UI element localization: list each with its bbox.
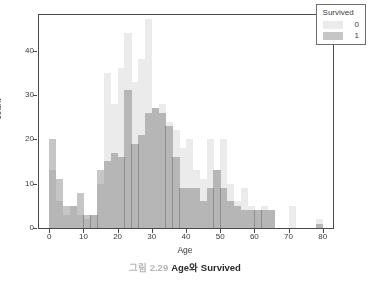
legend-item-label: 1 (355, 31, 359, 40)
x-axis-label: Age (0, 245, 370, 255)
figure-container: 010203040 01020304050607080 count Age Su… (0, 0, 370, 287)
histogram-bar (316, 224, 323, 228)
y-axis-tick-mark (33, 139, 37, 140)
histogram-bar (268, 210, 275, 228)
plot-area (39, 15, 333, 228)
y-axis-tick-label: 0 (4, 224, 34, 232)
legend-item-label: 0 (355, 20, 359, 29)
legend-entries: 01 (323, 20, 359, 40)
y-axis-tick-mark (33, 51, 37, 52)
x-axis-tick-label: 0 (34, 233, 64, 241)
x-axis-tick-label: 70 (274, 233, 304, 241)
figure-caption: 그림 2.29Age와 Survived (0, 262, 370, 274)
x-axis-tick-mark (289, 229, 290, 233)
x-axis-tick-mark (49, 229, 50, 233)
legend-swatch-icon (323, 32, 343, 40)
x-axis-tick-label: 20 (103, 233, 133, 241)
x-axis-tick-label: 80 (308, 233, 338, 241)
x-axis-tick-mark (152, 229, 153, 233)
plot-frame (38, 14, 334, 229)
x-axis-tick-label: 50 (205, 233, 235, 241)
x-axis-tick-label: 40 (171, 233, 201, 241)
y-axis-tick-mark (33, 228, 37, 229)
x-axis-tick-label: 30 (137, 233, 167, 241)
legend-swatch-icon (323, 21, 343, 29)
caption-number: 그림 2.29 (129, 262, 168, 273)
y-axis-tick-label: 20 (4, 135, 34, 143)
y-axis-tick-mark (33, 95, 37, 96)
y-axis-tick-label: 10 (4, 180, 34, 188)
y-axis-label: count (0, 99, 3, 120)
histogram-bar (289, 206, 296, 228)
y-axis-tick-label: 30 (4, 91, 34, 99)
x-axis-tick-mark (186, 229, 187, 233)
y-axis-tick-mark (33, 184, 37, 185)
y-axis-tick-label: 40 (4, 47, 34, 55)
legend-title: Survived (323, 8, 359, 17)
caption-text: Age와 Survived (171, 262, 241, 273)
x-axis-tick-label: 10 (68, 233, 98, 241)
legend: Survived 01 (316, 4, 366, 45)
x-axis-tick-label: 60 (239, 233, 269, 241)
legend-item: 0 (323, 20, 359, 29)
x-axis-tick-mark (118, 229, 119, 233)
x-axis-tick-mark (254, 229, 255, 233)
x-axis-tick-mark (83, 229, 84, 233)
legend-item: 1 (323, 31, 359, 40)
x-axis-tick-mark (323, 229, 324, 233)
x-axis-tick-mark (220, 229, 221, 233)
